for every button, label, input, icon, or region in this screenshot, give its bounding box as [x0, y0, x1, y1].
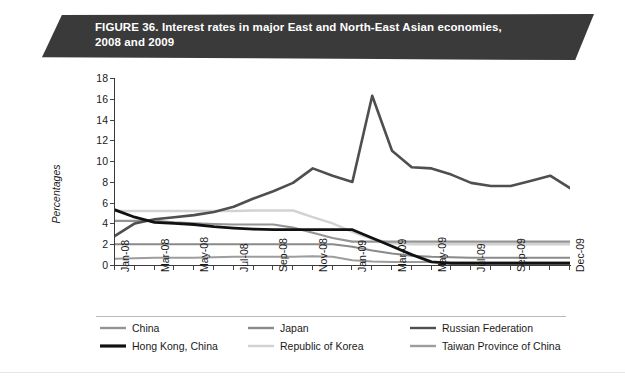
x-tick-Sep-08: Sep-08: [277, 238, 289, 272]
series-line-russian-federation: [115, 96, 570, 236]
figure-title-banner: FIGURE 36. Interest rates in major East …: [0, 14, 625, 64]
x-tick-Mar-09: Mar-09: [396, 239, 408, 272]
series-lines: [115, 78, 570, 265]
x-tick-Sep-09: Sep-09: [515, 238, 527, 272]
line-chart: Percentages 024681012141618 Jan-08Mar-08…: [0, 70, 625, 310]
legend-item-russian-federation[interactable]: Russian Federation: [410, 322, 533, 334]
legend-item-taiwan-province-of-china[interactable]: Taiwan Province of China: [410, 340, 560, 352]
legend-item-china[interactable]: China: [100, 322, 159, 334]
legend-swatch-icon: [410, 340, 436, 352]
y-tick-14: 14: [82, 114, 108, 126]
x-tick-Jul-08: Jul-08: [238, 243, 250, 272]
y-axis-tick-labels: 024681012141618: [82, 70, 108, 270]
legend-label: China: [132, 322, 159, 334]
y-tick-12: 12: [82, 134, 108, 146]
legend-swatch-icon: [248, 322, 274, 334]
banner-text-block: FIGURE 36. Interest rates in major East …: [95, 20, 565, 50]
legend-label: Russian Federation: [442, 322, 533, 334]
legend-label: Republic of Korea: [280, 340, 363, 352]
x-tick-May-08: May-08: [198, 237, 210, 272]
x-tick-Jan-08: Jan-08: [119, 240, 131, 272]
x-tick-Dec-09: Dec-09: [574, 238, 586, 272]
page-divider: [0, 372, 625, 373]
y-tick-4: 4: [82, 217, 108, 229]
legend-label: Hong Kong, China: [132, 340, 218, 352]
y-tick-6: 6: [82, 197, 108, 209]
legend-label: Japan: [280, 322, 309, 334]
legend-swatch-icon: [100, 340, 126, 352]
legend-item-hong-kong-china[interactable]: Hong Kong, China: [100, 340, 218, 352]
figure-title-line2: 2008 and 2009: [95, 35, 565, 50]
legend-swatch-icon: [248, 340, 274, 352]
x-tick-May-09: May-09: [436, 237, 448, 272]
y-tick-8: 8: [82, 176, 108, 188]
y-tick-18: 18: [82, 72, 108, 84]
legend-swatch-icon: [410, 322, 436, 334]
y-axis-label: Percentages: [50, 134, 62, 254]
figure-title-line1: Interest rates in major East and North-E…: [162, 21, 502, 33]
x-tick-Mar-08: Mar-08: [159, 239, 171, 272]
x-tick-Jan-09: Jan-09: [356, 240, 368, 272]
x-tick-Nov-08: Nov-08: [317, 238, 329, 272]
chart-legend: ChinaHong Kong, ChinaJapanRepublic of Ko…: [0, 316, 625, 362]
legend-item-japan[interactable]: Japan: [248, 322, 309, 334]
series-line-hong-kong-china: [115, 210, 570, 264]
legend-divider: [96, 316, 566, 317]
y-tick-2: 2: [82, 238, 108, 250]
series-line-japan: [115, 244, 570, 258]
plot-area: [115, 78, 570, 265]
legend-label: Taiwan Province of China: [442, 340, 560, 352]
x-tick-Jul-09: Jul-09: [475, 243, 487, 272]
figure-number: FIGURE 36.: [95, 21, 159, 33]
legend-item-republic-of-korea[interactable]: Republic of Korea: [248, 340, 363, 352]
legend-swatch-icon: [100, 322, 126, 334]
y-tick-16: 16: [82, 93, 108, 105]
y-tick-10: 10: [82, 155, 108, 167]
